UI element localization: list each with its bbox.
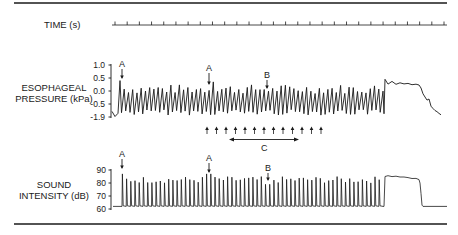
sound-marker-a2: A xyxy=(206,154,212,163)
sound-tick-70: 70 xyxy=(84,192,106,201)
esophageal-pressure-trace xyxy=(112,79,441,116)
sound-label-line1: SOUND xyxy=(30,179,78,190)
eso-marker-b: B xyxy=(264,71,270,80)
sound-tick-60: 60 xyxy=(84,205,106,214)
sound-marker-a1: A xyxy=(119,150,125,159)
eso-tick-5: -1.9 xyxy=(83,113,105,122)
eso-marker-a1: A xyxy=(119,60,125,69)
sound-y-axis xyxy=(109,169,112,210)
eso-tick-1: 1.0 xyxy=(83,61,105,70)
marker-c: C xyxy=(261,144,268,153)
marker-arrows xyxy=(120,69,270,181)
time-axis xyxy=(112,22,447,26)
time-label: TIME (s) xyxy=(44,19,80,30)
sound-tick-80: 80 xyxy=(84,179,106,188)
c-interval-arrow xyxy=(229,138,299,142)
esophageal-y-axis xyxy=(109,64,112,118)
eso-tick-2: 0.5 xyxy=(83,74,105,83)
sound-tick-90: 90 xyxy=(84,166,106,175)
eso-tick-4: -0.5 xyxy=(83,100,105,109)
sound-marker-b: B xyxy=(265,164,271,173)
sound-intensity-trace xyxy=(113,174,447,207)
eso-tick-3: 0.0 xyxy=(83,87,105,96)
eso-marker-a2: A xyxy=(206,64,212,73)
arrow-row xyxy=(205,127,323,135)
esophageal-label-line1: ESOPHAGEAL xyxy=(16,82,92,93)
